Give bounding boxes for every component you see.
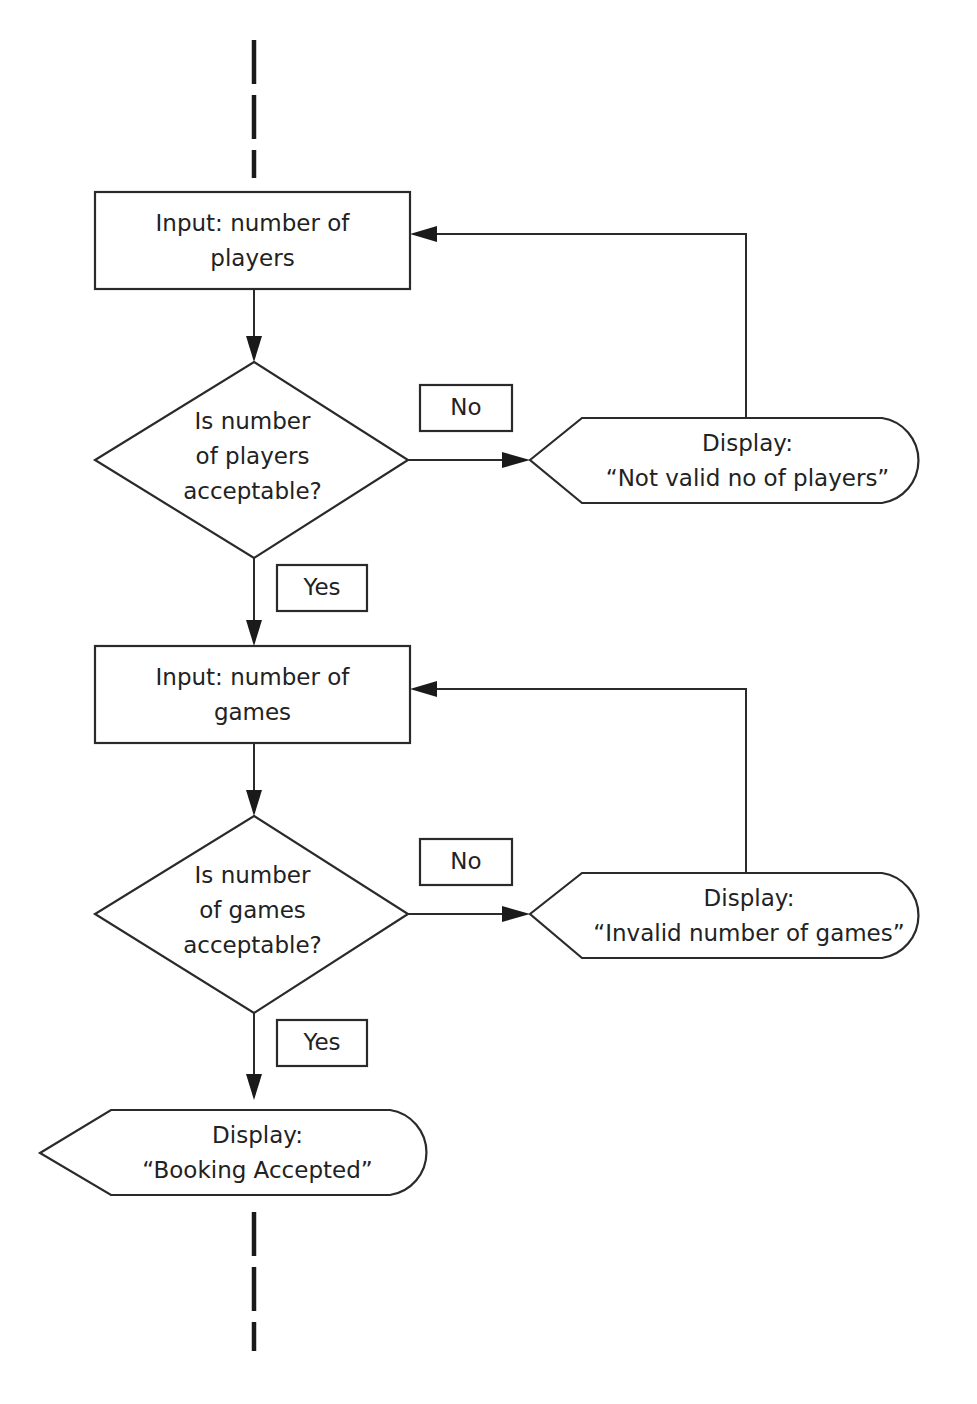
arrowhead-right-icon bbox=[502, 906, 530, 922]
games-yes-label: Yes bbox=[277, 1020, 367, 1064]
display-invalid-games-line2: “Invalid number of games” bbox=[565, 916, 933, 951]
arrowhead-down-icon bbox=[246, 620, 262, 646]
flowchart-canvas: Input: number of players Is number of pl… bbox=[0, 0, 977, 1404]
input-players-line2: players bbox=[95, 241, 410, 276]
decision-games-text: Is number of games acceptable? bbox=[95, 858, 410, 963]
arrowhead-down-icon bbox=[246, 1074, 262, 1100]
input-players-text: Input: number of players bbox=[95, 206, 410, 276]
input-games-text: Input: number of games bbox=[95, 660, 410, 730]
decision-games-line3: acceptable? bbox=[95, 928, 410, 963]
arrowhead-right-icon bbox=[502, 452, 530, 468]
arrowhead-left-icon bbox=[410, 226, 437, 242]
arrowhead-down-icon bbox=[246, 336, 262, 362]
display-invalid-games-text: Display: “Invalid number of games” bbox=[565, 881, 933, 951]
input-players-line1: Input: number of bbox=[95, 206, 410, 241]
players-no-label: No bbox=[420, 385, 512, 429]
arrowhead-left-icon bbox=[410, 681, 437, 697]
display-invalid-games-line1: Display: bbox=[565, 881, 933, 916]
games-no-label: No bbox=[420, 839, 512, 883]
decision-games-line1: Is number bbox=[95, 858, 410, 893]
decision-players-line1: Is number bbox=[95, 404, 410, 439]
players-yes-label: Yes bbox=[277, 565, 367, 609]
input-games-line2: games bbox=[95, 695, 410, 730]
arrowhead-down-icon bbox=[246, 790, 262, 816]
display-booking-accepted-line2: “Booking Accepted” bbox=[95, 1153, 420, 1188]
input-games-line1: Input: number of bbox=[95, 660, 410, 695]
display-booking-accepted-text: Display: “Booking Accepted” bbox=[95, 1118, 420, 1188]
display-invalid-players-line1: Display: bbox=[570, 426, 925, 461]
display-invalid-players-text: Display: “Not valid no of players” bbox=[570, 426, 925, 496]
display-invalid-players-line2: “Not valid no of players” bbox=[570, 461, 925, 496]
decision-games-line2: of games bbox=[95, 893, 410, 928]
decision-players-line2: of players bbox=[95, 439, 410, 474]
decision-players-text: Is number of players acceptable? bbox=[95, 404, 410, 509]
decision-players-line3: acceptable? bbox=[95, 474, 410, 509]
display-booking-accepted-line1: Display: bbox=[95, 1118, 420, 1153]
